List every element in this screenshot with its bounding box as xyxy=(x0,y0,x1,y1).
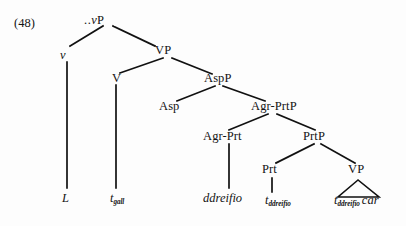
branch-root-to-little-v xyxy=(70,26,103,46)
branch-vp-upper-to-v-head xyxy=(120,58,163,73)
branch-agr-prtp-to-prtp xyxy=(277,114,315,130)
leaf-t-gall: tgall xyxy=(110,192,124,206)
node-prtp: PrtP xyxy=(303,130,325,143)
node-little-v: v xyxy=(60,49,66,62)
branch-prtp-to-prt xyxy=(276,144,314,163)
trace-subscript-ddreifio: ddreifio xyxy=(337,200,359,208)
figure-container: (48) xyxy=(0,0,406,226)
node-vp-upper: VP xyxy=(155,44,171,57)
branch-aspp-to-asp xyxy=(177,86,215,101)
node-prt: Prt xyxy=(262,163,277,176)
trace-subscript-ddreifio: ddreifio xyxy=(268,200,290,208)
node-aspp: AspP xyxy=(204,72,232,85)
node-agr-prt: Agr-Prt xyxy=(203,130,242,143)
node-asp: Asp xyxy=(159,100,179,113)
branch-prtp-to-vp-lower xyxy=(321,144,355,163)
leaf-car: car xyxy=(362,193,379,207)
leaf-t-ddreifio-prt: tddreifio xyxy=(265,194,291,208)
branch-root-to-vp-upper xyxy=(113,26,155,46)
node-agr-prtp: Agr-PrtP xyxy=(251,100,297,113)
root-p-letter: P xyxy=(97,13,104,27)
leaf-L: L xyxy=(62,192,69,205)
leaf-t-ddreifio-car: tddreifiocar xyxy=(334,194,379,208)
node-root-vp: ..vP xyxy=(84,14,104,27)
trace-subscript-gall: gall xyxy=(113,198,124,206)
node-vp-lower: VP xyxy=(348,163,364,176)
leaf-ddreifio: ddreifio xyxy=(203,192,242,205)
branch-agr-prtp-to-agr-prt xyxy=(229,114,268,130)
node-v-head: V xyxy=(112,72,121,85)
